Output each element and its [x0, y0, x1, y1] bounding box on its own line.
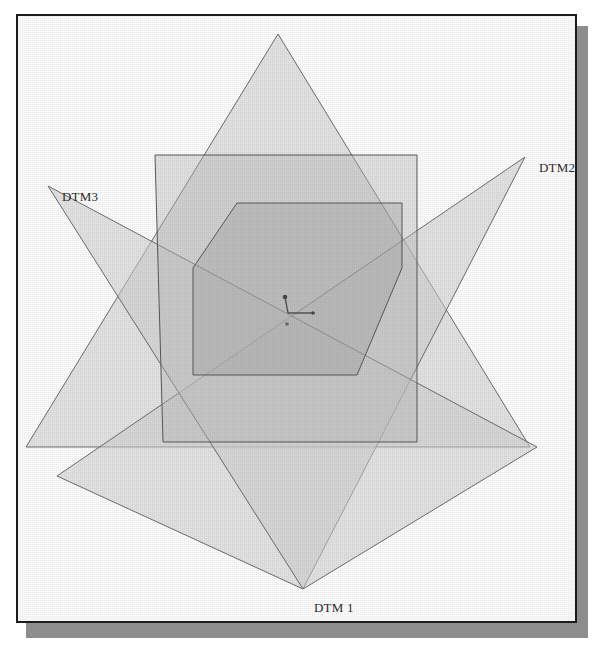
axis-x-tip-dot [311, 311, 315, 315]
dtm2-label: DTM2 [539, 160, 575, 176]
figure-frame: DTM 1 DTM2 DTM3 [16, 14, 577, 623]
figure-stage: DTM 1 DTM2 DTM3 [0, 0, 607, 645]
dtm-overlap-diagram [18, 16, 575, 621]
axis-z-tip-dot [283, 295, 288, 300]
dtm1-label: DTM 1 [314, 600, 354, 616]
dtm3-label: DTM3 [62, 189, 98, 205]
axis-y-tip-dot [285, 322, 289, 326]
